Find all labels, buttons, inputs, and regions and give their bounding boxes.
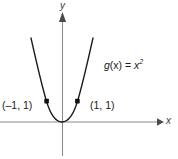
y-axis-arrowhead bbox=[59, 12, 66, 22]
point-label-left: (–1, 1) bbox=[2, 100, 32, 111]
marked-point-right bbox=[75, 99, 80, 104]
function-argument-text: (x) bbox=[110, 59, 122, 71]
point-label-right: (1, 1) bbox=[90, 100, 115, 111]
graph-figure: y x g(x) = x2 (–1, 1) (1, 1) bbox=[0, 0, 178, 159]
function-exponent-text: 2 bbox=[139, 58, 143, 65]
marked-point-left bbox=[44, 99, 49, 104]
y-axis-label: y bbox=[60, 1, 65, 11]
function-equation-label: g(x) = x2 bbox=[104, 58, 143, 70]
graph-canvas bbox=[0, 0, 178, 159]
x-axis-arrowhead bbox=[157, 118, 164, 126]
x-axis-label: x bbox=[166, 116, 171, 126]
function-equals-text: = bbox=[122, 59, 134, 71]
